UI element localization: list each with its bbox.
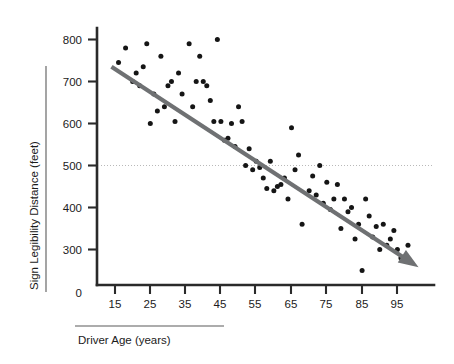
data-point (314, 192, 319, 197)
data-point (180, 92, 185, 97)
data-point (317, 163, 322, 168)
data-point (240, 119, 245, 124)
y-tick-label-600: 600 (63, 118, 82, 130)
data-point (190, 104, 195, 109)
data-point (155, 108, 160, 113)
y-tick-label-700: 700 (63, 76, 82, 88)
data-point (194, 79, 199, 84)
data-point (349, 205, 354, 210)
data-point (324, 180, 329, 185)
data-point (197, 54, 202, 59)
data-point (250, 167, 255, 172)
data-point (360, 268, 365, 273)
data-point (187, 41, 192, 46)
data-point (148, 121, 153, 126)
data-point (247, 146, 252, 151)
y-tick-label-500: 500 (63, 160, 82, 172)
data-point (381, 222, 386, 227)
x-tick-label-25: 25 (144, 298, 157, 310)
y-axis-tick-labels: 800 700 600 500 400 300 0 (63, 34, 82, 300)
data-point (377, 247, 382, 252)
y-tick-label-800: 800 (63, 34, 82, 46)
data-point (271, 188, 276, 193)
data-point (293, 167, 298, 172)
data-point (300, 222, 305, 227)
data-point (296, 153, 301, 158)
data-point (169, 79, 174, 84)
data-point (310, 174, 315, 179)
data-point (353, 237, 358, 242)
data-point (158, 54, 163, 59)
x-tick-label-95: 95 (391, 298, 404, 310)
data-point (342, 197, 347, 202)
data-point (208, 98, 213, 103)
trend-line-segment (111, 67, 405, 259)
data-point (134, 71, 139, 76)
data-point (388, 237, 393, 242)
x-axis-ticks (115, 285, 397, 294)
data-point (173, 119, 178, 124)
x-tick-label-65: 65 (285, 298, 298, 310)
data-point (204, 83, 209, 88)
data-point (236, 104, 241, 109)
data-point (331, 197, 336, 202)
data-point (141, 64, 146, 69)
scatter-plot-figure: Sign Legibility Distance (feet) 800 700 … (0, 0, 454, 364)
x-tick-label-55: 55 (249, 298, 262, 310)
x-tick-label-75: 75 (320, 298, 333, 310)
data-point (367, 213, 372, 218)
data-point (289, 125, 294, 130)
data-point (229, 121, 234, 126)
x-tick-label-45: 45 (214, 298, 227, 310)
x-tick-label-35: 35 (179, 298, 192, 310)
data-point (278, 182, 283, 187)
data-point (261, 176, 266, 181)
data-point (218, 119, 223, 124)
data-point (391, 228, 396, 233)
x-axis-title: Driver Age (years) (78, 334, 171, 346)
data-point (243, 163, 248, 168)
data-point-group (116, 37, 410, 273)
data-point (264, 186, 269, 191)
data-point (338, 226, 343, 231)
trend-arrowhead-icon (398, 250, 419, 267)
data-point (335, 182, 340, 187)
y-axis-ticks (88, 40, 97, 250)
data-point (345, 209, 350, 214)
data-point (123, 45, 128, 50)
y-tick-label-300: 300 (63, 244, 82, 256)
y-tick-label-zero: 0 (76, 287, 82, 299)
x-tick-label-15: 15 (109, 298, 122, 310)
data-point (116, 60, 121, 65)
data-point (285, 197, 290, 202)
x-tick-label-85: 85 (356, 298, 369, 310)
data-point (176, 71, 181, 76)
x-axis-tick-labels: 15 25 35 45 55 65 75 85 95 (109, 298, 404, 310)
y-axis-title: Sign Legibility Distance (feet) (28, 141, 40, 290)
data-point (405, 243, 410, 248)
plot-canvas: Sign Legibility Distance (feet) 800 700 … (0, 0, 454, 364)
y-tick-label-400: 400 (63, 202, 82, 214)
data-point (363, 197, 368, 202)
data-point (144, 41, 149, 46)
data-point (211, 119, 216, 124)
data-point (165, 83, 170, 88)
data-point (215, 37, 220, 42)
data-point (268, 159, 273, 164)
trend-line-arrow (111, 67, 418, 267)
data-point (374, 224, 379, 229)
data-point (201, 79, 206, 84)
